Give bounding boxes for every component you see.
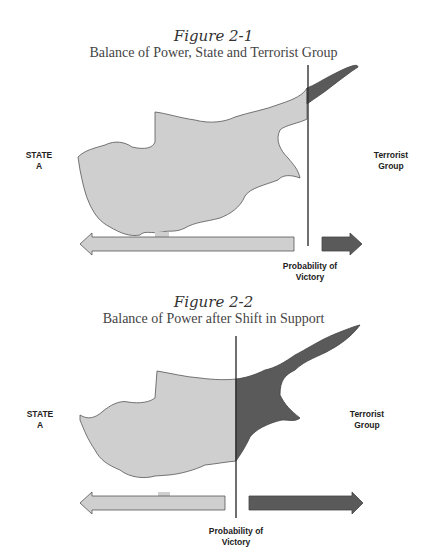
figure-1-state-label: STATE A bbox=[24, 150, 54, 172]
figure-2-title: Figure 2-2 bbox=[0, 293, 427, 311]
terrorist-arrow bbox=[249, 492, 363, 514]
figure-2-terrorist-label: Terrorist Group bbox=[342, 409, 392, 431]
figure-1-subtitle: Balance of Power, State and Terrorist Gr… bbox=[0, 45, 427, 61]
axis-label-line2: Victory bbox=[270, 272, 350, 283]
figure-2-diagram bbox=[0, 322, 427, 542]
state-label-line1: STATE bbox=[24, 150, 54, 161]
figure-2-state-label: STATE A bbox=[25, 409, 55, 431]
terrorist-label-line1: Terrorist bbox=[342, 409, 392, 420]
figure-1-terrorist-label: Terrorist Group bbox=[366, 150, 416, 172]
figure-1-diagram bbox=[0, 60, 427, 260]
state-label-line2: A bbox=[25, 420, 55, 431]
figure-1-axis-label: Probability of Victory bbox=[270, 261, 350, 283]
figure-1-title: Figure 2-1 bbox=[0, 27, 427, 45]
terrorist-arrow bbox=[322, 233, 362, 255]
terrorist-label-line2: Group bbox=[342, 420, 392, 431]
terrorist-territory bbox=[236, 325, 360, 461]
state-territory bbox=[78, 88, 307, 236]
axis-label-line1: Probability of bbox=[196, 526, 276, 537]
state-arrow bbox=[80, 233, 294, 255]
figure-2-axis-label: Probability of Victory bbox=[196, 526, 276, 548]
terrorist-label-line2: Group bbox=[366, 161, 416, 172]
terrorist-label-line1: Terrorist bbox=[366, 150, 416, 161]
state-arrow bbox=[80, 492, 225, 514]
state-label-line2: A bbox=[24, 161, 54, 172]
state-territory bbox=[80, 371, 236, 478]
terrorist-territory bbox=[307, 65, 358, 104]
state-label-line1: STATE bbox=[25, 409, 55, 420]
axis-label-line1: Probability of bbox=[270, 261, 350, 272]
axis-label-line2: Victory bbox=[196, 537, 276, 548]
